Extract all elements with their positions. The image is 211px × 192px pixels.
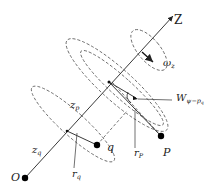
omega-label: ωz — [163, 58, 175, 69]
P-label: P — [163, 147, 170, 158]
angle-label: Wψ−pq — [176, 93, 204, 105]
z-axis-label: Z — [174, 14, 182, 26]
z-q-label: zq — [32, 145, 41, 156]
inner-ellipse-p — [74, 44, 169, 132]
r-q-label: rq — [72, 169, 81, 180]
z-axis — [25, 16, 173, 178]
outer-ellipse-p — [57, 28, 178, 141]
r-q-line — [67, 131, 97, 145]
point-P — [158, 133, 164, 139]
omega-arrow — [142, 52, 153, 62]
z-p-label: zp — [70, 100, 79, 111]
point-origin — [22, 175, 28, 181]
diagram-canvas: Z ωz Wψ−pq zp zq rq rP q P O — [0, 0, 211, 192]
r-p-label: rP — [134, 148, 143, 159]
angle-marker — [133, 96, 138, 100]
q-label: q — [107, 142, 114, 153]
origin-label: O — [11, 172, 20, 183]
point-q — [94, 142, 100, 148]
